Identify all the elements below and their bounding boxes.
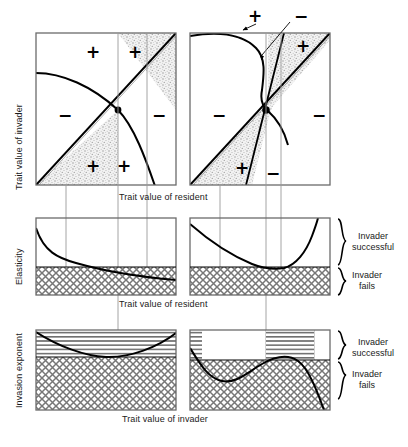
panel-invasion-exponent-right: [190, 330, 330, 410]
region-sign-minus: −: [58, 107, 72, 124]
region-sign-minus: −: [212, 107, 226, 124]
stipple-region-lower: [36, 110, 118, 185]
brace-invader-successful: [338, 219, 346, 265]
y-axis-label-bottom: Invasion exponent: [14, 333, 24, 408]
elasticity-curve: [190, 218, 318, 269]
brace-label-line1: Invader: [358, 231, 388, 241]
brace-label-invader-successful-bottom: Invader successful: [352, 337, 394, 359]
region-sign-minus: −: [294, 8, 308, 25]
region-sign-plus: +: [86, 44, 100, 61]
brace-label-line1: Invader: [352, 270, 382, 280]
region-sign-minus: −: [312, 107, 326, 124]
brace-label-line2: successful: [352, 348, 394, 358]
brace-invader-fails: [338, 362, 346, 399]
region-sign-minus: −: [152, 107, 166, 124]
brace-label-line2: successful: [352, 242, 394, 252]
y-axis-label-top: Trait value of invader: [14, 104, 24, 190]
invader-successful-band-left: [190, 330, 202, 360]
brace-label-invader-fails-middle: Invader fails: [352, 270, 382, 292]
region-sign-plus: +: [128, 44, 142, 61]
region-sign-plus: +: [235, 160, 249, 177]
brace-group-bottom: [338, 331, 346, 399]
x-axis-label-middle: Trait value of resident: [119, 299, 208, 309]
invader-successful-band-mid: [266, 330, 314, 360]
brace-invader-successful: [338, 331, 346, 359]
brace-label-line2: fails: [359, 281, 375, 291]
pairwise-invasibility-figure: [0, 0, 408, 447]
x-axis-label-bottom: Trait value of invader: [122, 414, 208, 424]
brace-label-invader-fails-bottom: Invader fails: [352, 369, 382, 391]
y-axis-label-middle: Elasticity: [14, 248, 24, 285]
panel-elasticity-left: [36, 218, 176, 295]
panel-elasticity-right: [190, 218, 330, 295]
x-axis-label-top: Trait value of resident: [119, 192, 208, 202]
invader-fails-band: [36, 357, 176, 410]
brace-label-line2: fails: [359, 380, 375, 390]
region-sign-plus: +: [117, 158, 131, 175]
region-sign-plus: +: [296, 38, 310, 55]
region-sign-plus: +: [86, 158, 100, 175]
region-sign-plus: +: [248, 8, 262, 25]
brace-invader-fails: [338, 268, 346, 295]
invader-fails-band: [190, 267, 330, 295]
brace-group-middle: [338, 219, 346, 295]
brace-label-invader-successful-middle: Invader successful: [352, 231, 394, 253]
brace-label-line1: Invader: [358, 337, 388, 347]
panel-invasion-exponent-left: [36, 330, 176, 410]
brace-label-line1: Invader: [352, 369, 382, 379]
invader-fails-band: [190, 360, 330, 410]
region-sign-minus: −: [266, 165, 280, 182]
